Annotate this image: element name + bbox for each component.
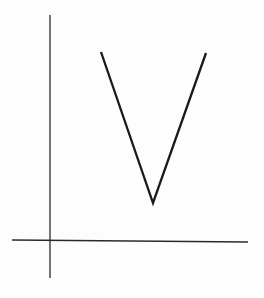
x-axis [12, 240, 248, 242]
v-graph-figure [0, 0, 264, 298]
v-shaped-curve [101, 52, 206, 203]
graph-canvas [0, 0, 264, 298]
